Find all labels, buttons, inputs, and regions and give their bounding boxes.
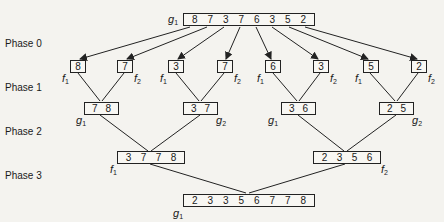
phase0-label: f1	[62, 72, 69, 85]
phase2-box: 2356	[313, 151, 381, 164]
phase-0-label: Phase 0	[5, 38, 42, 49]
phase2-box: 3778	[117, 151, 185, 164]
phase0-box: 3	[313, 60, 329, 73]
phase0-box: 2	[411, 60, 427, 73]
phase2-label: f2	[381, 163, 388, 176]
phase-1-label: Phase 1	[5, 82, 42, 93]
phase-3-label: Phase 3	[5, 170, 42, 181]
input-array: 87376352	[183, 13, 315, 26]
phase0-box: 3	[168, 60, 184, 73]
phase1-box: 25	[379, 102, 414, 115]
phase0-label: f1	[257, 72, 264, 85]
phase3-box: 23356778	[183, 194, 315, 207]
phase0-label: f2	[428, 72, 435, 85]
phase0-box: 8	[70, 60, 86, 73]
phase1-label: g1	[268, 114, 278, 127]
phase0-box: 5	[363, 60, 379, 73]
phase0-label: f2	[134, 72, 141, 85]
input-label: g1	[168, 13, 178, 26]
phase0-label: f2	[234, 72, 241, 85]
phase0-label: f1	[355, 72, 362, 85]
phase0-box: 6	[265, 60, 281, 73]
phase1-label: g1	[76, 114, 86, 127]
phase1-box: 78	[84, 102, 119, 115]
phase0-label: f1	[160, 72, 167, 85]
phase1-box: 37	[183, 102, 218, 115]
phase-2-label: Phase 2	[5, 126, 42, 137]
connector-lines	[0, 0, 444, 222]
phase0-box: 7	[117, 60, 133, 73]
phase1-box: 36	[281, 102, 316, 115]
phase1-label: g2	[216, 114, 226, 127]
phase2-label: f1	[110, 163, 117, 176]
phase3-label: g1	[173, 207, 183, 220]
phase1-label: g2	[412, 114, 422, 127]
phase0-box: 7	[217, 60, 233, 73]
phase0-label: f2	[330, 72, 337, 85]
